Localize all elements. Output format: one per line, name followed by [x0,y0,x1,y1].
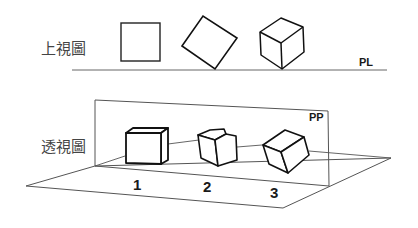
cube-1-number: 1 [133,176,141,193]
cube-3 [263,130,309,173]
cube-3-number: 3 [270,184,278,201]
cube-1 [126,128,168,164]
perspective-view-label: 透視圖 [41,135,86,156]
cube-2 [198,129,237,166]
pp-label: PP [309,111,324,123]
pl-label: PL [359,56,373,68]
top-rotated-square [182,16,237,69]
top-cube [260,18,304,69]
top-square [121,23,160,61]
perspective-diagram: 上視圖 PL 透視圖 PP 1 2 3 [0,0,418,228]
top-view-label: 上視圖 [41,37,86,58]
cube-2-number: 2 [203,178,211,195]
